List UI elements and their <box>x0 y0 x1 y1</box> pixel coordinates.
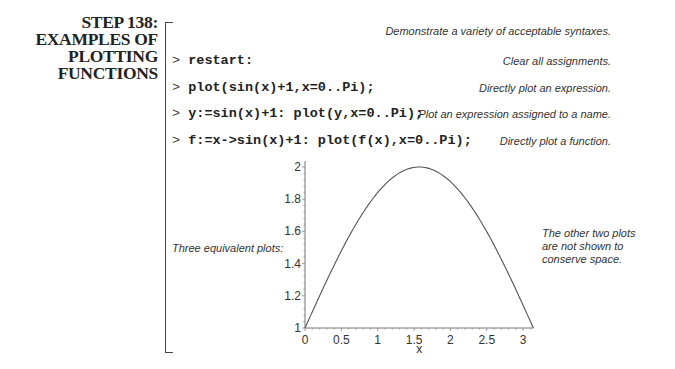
command-line-restart[interactable]: > restart: <box>172 53 253 68</box>
command-note: Clear all assignments. <box>503 55 611 67</box>
svg-text:1.4: 1.4 <box>284 257 301 271</box>
svg-text:0.5: 0.5 <box>333 333 350 347</box>
command-code: restart: <box>188 53 253 68</box>
command-code: plot(sin(x)+1,x=0..Pi); <box>188 80 374 95</box>
intro-note: Demonstrate a variety of acceptable synt… <box>385 25 611 37</box>
svg-text:1.8: 1.8 <box>284 192 301 206</box>
command-line-plot-named[interactable]: > y:=sin(x)+1: plot(y,x=0..Pi); <box>172 106 423 121</box>
prompt-symbol: > <box>172 106 180 121</box>
right-note-line: The other two plots <box>542 227 636 240</box>
plot-axes <box>302 161 533 331</box>
tick-labels: 00.511.522.5311.21.41.61.82 <box>284 160 526 347</box>
svg-text:2: 2 <box>447 333 454 347</box>
command-code: f:=x->sin(x)+1: plot(f(x),x=0..Pi); <box>188 133 472 148</box>
command-line-plot-expression[interactable]: > plot(sin(x)+1,x=0..Pi); <box>172 80 375 95</box>
svg-text:3: 3 <box>520 333 527 347</box>
svg-text:1: 1 <box>294 321 301 335</box>
right-note: The other two plots are not shown to con… <box>542 227 636 266</box>
plot-curve <box>305 167 533 328</box>
command-line-plot-function[interactable]: > f:=x->sin(x)+1: plot(f(x),x=0..Pi); <box>172 133 472 148</box>
step-title-line: FUNCTIONS <box>35 65 158 82</box>
svg-text:2.5: 2.5 <box>478 333 495 347</box>
svg-text:0: 0 <box>302 333 309 347</box>
svg-text:1.5: 1.5 <box>406 333 423 347</box>
worksheet-bracket <box>165 22 174 353</box>
prompt-symbol: > <box>172 53 180 68</box>
prompt-symbol: > <box>172 133 180 148</box>
x-axis-label: x <box>416 342 422 356</box>
step-title: STEP 138: EXAMPLES OF PLOTTING FUNCTIONS <box>35 14 158 82</box>
right-note-line: are not shown to <box>542 240 636 253</box>
command-note: Directly plot a function. <box>500 135 611 147</box>
right-note-line: conserve space. <box>542 253 636 266</box>
left-note: Three equivalent plots: <box>172 242 283 255</box>
prompt-symbol: > <box>172 80 180 95</box>
command-note: Directly plot an expression. <box>479 82 611 94</box>
svg-text:1.2: 1.2 <box>284 289 301 303</box>
svg-text:1.6: 1.6 <box>284 224 301 238</box>
command-note: Plot an expression assigned to a name. <box>418 108 611 120</box>
svg-text:1: 1 <box>374 333 381 347</box>
svg-text:2: 2 <box>294 160 301 174</box>
command-code: y:=sin(x)+1: plot(y,x=0..Pi); <box>188 106 423 121</box>
